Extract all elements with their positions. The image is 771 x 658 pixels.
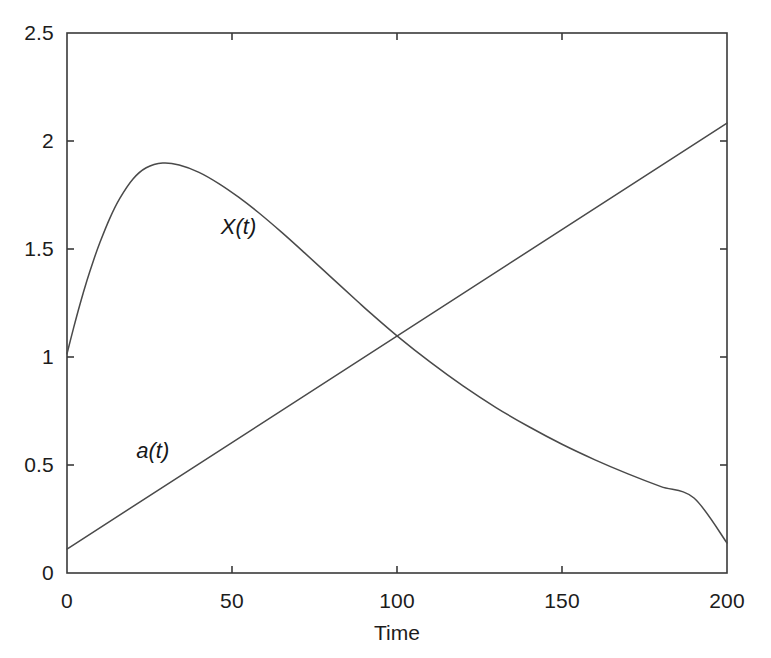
y-tick-label: 2 [0, 129, 54, 153]
y-tick-label: 1.5 [0, 237, 54, 261]
x-tick-label: 50 [220, 589, 244, 613]
x-tick-label: 100 [379, 589, 415, 613]
x-tick-label: 150 [544, 589, 580, 613]
x-tick-label: 200 [709, 589, 745, 613]
y-tick-label: 0.5 [0, 453, 54, 477]
chart-plot-area [0, 0, 771, 658]
x-axis-title: Time [374, 621, 420, 645]
y-tick-label: 0 [0, 561, 54, 585]
series-line-at [67, 123, 727, 549]
curve-label-at: a(t) [136, 438, 169, 464]
y-tick-label: 1 [0, 345, 54, 369]
plot-frame [67, 33, 727, 573]
curve-label-xt: X(t) [221, 214, 256, 240]
x-tick-label: 0 [61, 589, 73, 613]
chart-figure: 05010015020000.511.522.5X(t)a(t)Time [0, 0, 771, 658]
y-tick-label: 2.5 [0, 21, 54, 45]
